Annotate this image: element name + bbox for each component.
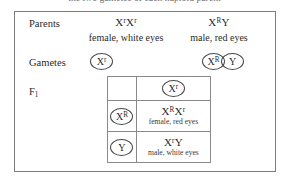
punnett-row: XR XRXr female, red eyes xyxy=(108,101,211,132)
punnett-row-header-cell-xR: XR xyxy=(108,101,137,132)
figure-caption-strip: the two gametes of each haploid parent xyxy=(0,0,289,9)
punnett-square-figure: Parents XrXr female, white eyes XRY male… xyxy=(14,11,276,172)
gamete-circle-header-xr: Xr xyxy=(162,80,185,97)
punnett-offspring-cell-male: XrY male, white eyes xyxy=(136,132,210,163)
punnett-corner-cell xyxy=(108,77,137,101)
gamete-circle-row-y: Y xyxy=(110,139,133,156)
offspring-male: XrY male, white eyes xyxy=(137,136,210,158)
offspring-male-phenotype: male, white eyes xyxy=(137,149,210,158)
row-label-f1: F1 xyxy=(29,86,38,97)
punnett-header-row: Xr xyxy=(108,77,211,101)
punnett-column-header-cell: Xr xyxy=(136,77,210,101)
gamete-circle-male-y: Y xyxy=(221,53,244,70)
row-label-gametes: Gametes xyxy=(29,57,66,68)
punnett-row-header-cell-y: Y xyxy=(108,132,137,163)
gametes-male-group: XR Y xyxy=(202,53,244,70)
parent-male: XRY male, red eyes xyxy=(165,16,273,43)
punnett-grid: Xr XR XRXr female, red eyes Y xyxy=(107,76,211,163)
offspring-female: XRXr female, red eyes xyxy=(137,105,210,127)
gamete-circle-female-xr: Xr xyxy=(90,53,113,70)
row-label-parents: Parents xyxy=(29,18,60,29)
punnett-row: Y XrY male, white eyes xyxy=(108,132,211,163)
punnett-offspring-cell-female: XRXr female, red eyes xyxy=(136,101,210,132)
gametes-female-group: Xr xyxy=(90,53,113,70)
offspring-female-phenotype: female, red eyes xyxy=(137,118,210,127)
gamete-circle-row-xR: XR xyxy=(110,108,133,125)
figure-caption-text: the two gametes of each haploid parent xyxy=(68,0,221,3)
parent-male-phenotype: male, red eyes xyxy=(165,32,273,43)
parent-male-genotype: XRY xyxy=(165,16,273,28)
